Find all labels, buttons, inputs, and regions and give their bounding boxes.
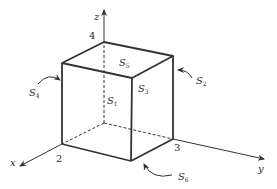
surface-label-s4: S4 xyxy=(29,88,40,99)
surface-label-s2-base: S xyxy=(196,75,203,86)
surface-label-s5-base: S xyxy=(119,57,126,68)
vertex-label-3: 3 xyxy=(174,143,180,153)
vertex-label-2: 2 xyxy=(56,154,62,164)
z-axis-label: z xyxy=(94,12,99,22)
s4-pointer-arrow xyxy=(38,77,60,84)
surface-label-s1-sub: 1 xyxy=(114,100,118,107)
surface-label-s6: S6 xyxy=(178,172,189,183)
y-axis xyxy=(173,139,264,159)
hidden-edge-x xyxy=(62,123,104,144)
surface-label-s5: S5 xyxy=(119,58,130,69)
surface-label-s1: S1 xyxy=(107,96,118,107)
cube-diagram: z x y 4 2 3 S5 S1 S3 S2 S4 S6 xyxy=(0,0,277,189)
surface-label-s3-base: S xyxy=(138,83,145,94)
surface-label-s3-sub: 3 xyxy=(145,88,149,95)
y-axis-label: y xyxy=(258,164,264,174)
x-axis-label: x xyxy=(10,158,16,168)
s6-pointer-arrow xyxy=(144,164,172,176)
surface-label-s4-base: S xyxy=(29,87,36,98)
surface-label-s6-sub: 6 xyxy=(185,176,189,183)
surface-label-s6-base: S xyxy=(178,171,185,182)
surface-label-s5-sub: 5 xyxy=(126,62,130,69)
surface-label-s1-base: S xyxy=(107,95,114,106)
surface-label-s3: S3 xyxy=(138,84,149,95)
s2-pointer-arrow xyxy=(178,70,192,78)
hidden-edge-y xyxy=(104,123,173,139)
surface-label-s4-sub: 4 xyxy=(36,92,40,99)
vertex-label-4: 4 xyxy=(89,31,95,41)
surface-label-s2: S2 xyxy=(196,76,207,87)
surface-label-s2-sub: 2 xyxy=(203,80,207,87)
